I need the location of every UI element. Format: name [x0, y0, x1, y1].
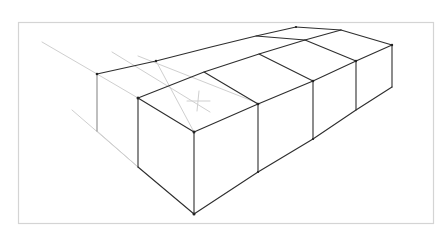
bottom-edges	[138, 87, 392, 214]
construction-lines	[42, 42, 260, 167]
top-grid	[97, 27, 392, 132]
vertex-dots	[96, 26, 394, 216]
perspective-drawing	[0, 0, 445, 240]
